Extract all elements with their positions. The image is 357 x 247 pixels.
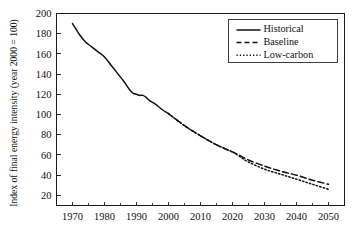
x-tick-label: 1980 <box>94 211 115 222</box>
x-tick-label: 2010 <box>190 211 211 222</box>
series-line-historical <box>73 24 169 114</box>
x-tick-label: 1990 <box>126 211 147 222</box>
x-tick-label: 2000 <box>158 211 179 222</box>
y-tick-label: 40 <box>41 170 52 181</box>
legend-label-historical[interactable]: Historical <box>264 23 304 34</box>
y-tick-label: 100 <box>36 109 52 120</box>
y-tick-label: 180 <box>36 28 52 39</box>
legend-label-low-carbon[interactable]: Low-carbon <box>264 49 314 60</box>
x-tick-label: 2040 <box>286 211 307 222</box>
x-tick-label: 2020 <box>222 211 243 222</box>
y-tick-label: 140 <box>36 69 52 80</box>
y-tick-label: 160 <box>36 49 52 60</box>
y-tick-label: 200 <box>36 8 52 19</box>
chart-legend[interactable]: HistoricalBaselineLow-carbon <box>229 20 338 63</box>
y-tick-label: 120 <box>36 89 52 100</box>
y-axis-title: Index of final energy intensity (year 20… <box>8 19 20 206</box>
y-tick-label: 60 <box>41 150 52 161</box>
y-tick-label: 80 <box>41 129 52 140</box>
line-chart: Index of final energy intensity (year 20… <box>0 0 357 247</box>
chart-figure: Index of final energy intensity (year 20… <box>0 0 357 247</box>
x-tick-label: 1970 <box>62 211 83 222</box>
legend-label-baseline[interactable]: Baseline <box>264 36 300 47</box>
x-tick-label: 2030 <box>254 211 275 222</box>
y-tick-label: 20 <box>41 190 52 201</box>
y-axis-title-label: Index of final energy intensity (year 20… <box>8 19 20 206</box>
x-tick-label: 2050 <box>318 211 339 222</box>
series-line-baseline <box>169 114 329 185</box>
